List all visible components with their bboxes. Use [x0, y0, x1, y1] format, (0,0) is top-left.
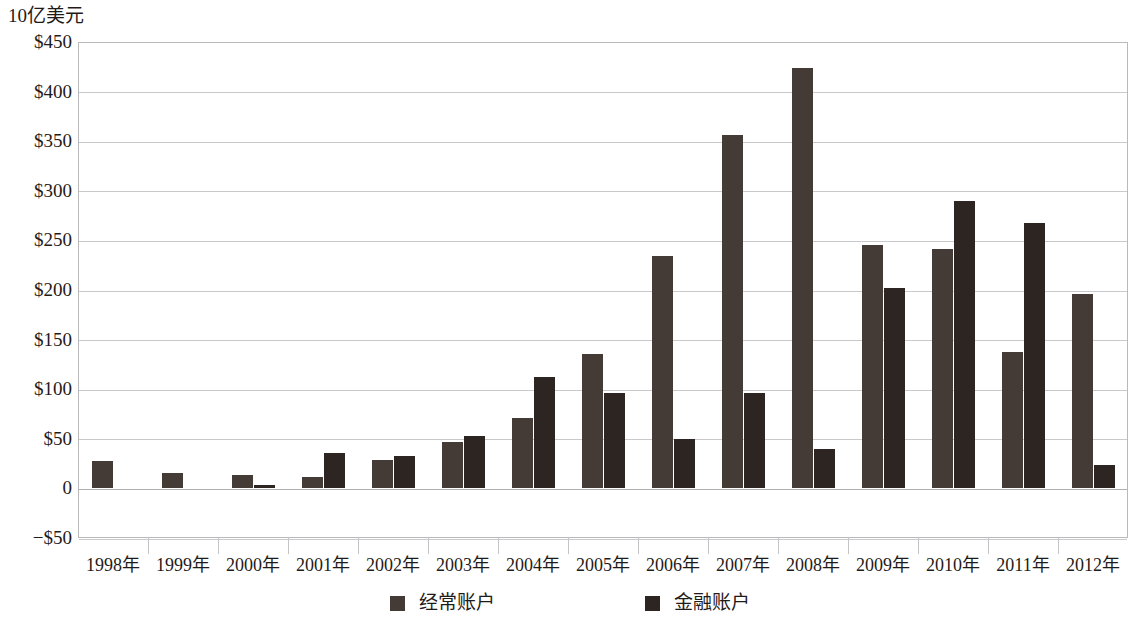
bar-financial — [464, 436, 485, 489]
y-axis-tick-label: $200 — [0, 280, 72, 299]
bar-group — [988, 42, 1058, 538]
bar-current — [442, 442, 463, 489]
bar-financial — [534, 377, 555, 488]
bars-layer — [78, 42, 1128, 538]
bar-current — [92, 461, 113, 489]
x-axis-tick-label: 1999年 — [148, 552, 218, 578]
y-axis-tick-label: −$50 — [0, 528, 72, 547]
bar-financial — [744, 393, 765, 488]
x-axis-tick-label: 2008年 — [778, 552, 848, 578]
bar-financial — [1024, 223, 1045, 489]
y-axis-tick-label: $100 — [0, 379, 72, 398]
bar-group — [848, 42, 918, 538]
bar-current — [652, 256, 673, 488]
bar-group — [778, 42, 848, 538]
x-axis-tick-labels: 1998年1999年2000年2001年2002年2003年2004年2005年… — [78, 552, 1128, 582]
legend-entry-2: 金融账户 — [645, 592, 750, 614]
bar-chart-figure: 10亿美元 $450$400$350$300$250$200$150$100$5… — [0, 0, 1140, 618]
bar-group — [148, 42, 218, 538]
bar-current — [512, 418, 533, 488]
bar-current — [302, 477, 323, 488]
bar-current — [862, 245, 883, 488]
bar-current — [932, 249, 953, 488]
y-axis-tick-label: 0 — [0, 478, 72, 497]
bar-financial — [674, 439, 695, 489]
x-axis-tick-label: 2010年 — [918, 552, 988, 578]
bar-financial — [954, 201, 975, 489]
x-axis-tick-label: 2002年 — [358, 552, 428, 578]
bar-current — [1002, 352, 1023, 489]
legend-entry-1: 经常账户 — [390, 592, 495, 614]
x-axis-tick-label: 2007年 — [708, 552, 778, 578]
bar-current — [162, 473, 183, 489]
x-axis-tick-label: 1998年 — [78, 552, 148, 578]
legend-swatch-icon — [645, 596, 660, 611]
x-axis-tick-label: 2000年 — [218, 552, 288, 578]
x-axis-tick-label: 2001年 — [288, 552, 358, 578]
y-axis-tick-label: $450 — [0, 32, 72, 51]
x-axis-tick-label: 2003年 — [428, 552, 498, 578]
y-axis-tick-label: $50 — [0, 429, 72, 448]
y-axis-tick-label: $400 — [0, 82, 72, 101]
y-axis-tick-label: $250 — [0, 230, 72, 249]
bar-financial — [254, 485, 275, 488]
y-axis-tick-label: $300 — [0, 181, 72, 200]
bar-current — [1072, 294, 1093, 488]
bar-current — [792, 68, 813, 489]
bar-financial — [604, 393, 625, 488]
bar-group — [568, 42, 638, 538]
chart-legend: 经常账户金融账户 — [0, 592, 1140, 614]
x-axis-tick-label: 2004年 — [498, 552, 568, 578]
legend-label: 金融账户 — [674, 592, 750, 614]
bar-group — [288, 42, 358, 538]
legend-label: 经常账户 — [419, 592, 495, 614]
bar-group — [1058, 42, 1128, 538]
x-axis-tick-label: 2005年 — [568, 552, 638, 578]
y-axis-unit-caption: 10亿美元 — [8, 4, 84, 28]
bar-current — [582, 354, 603, 488]
x-axis-tick-label: 2009年 — [848, 552, 918, 578]
bar-group — [428, 42, 498, 538]
bar-current — [372, 460, 393, 489]
bar-group — [638, 42, 708, 538]
x-axis-tick-label: 2006年 — [638, 552, 708, 578]
bar-group — [358, 42, 428, 538]
legend-swatch-icon — [390, 596, 405, 611]
x-axis-tick-label: 2011年 — [988, 552, 1058, 578]
x-axis-tick-label: 2012年 — [1058, 552, 1128, 578]
bar-current — [722, 135, 743, 488]
bar-financial — [1094, 465, 1115, 489]
bar-group — [218, 42, 288, 538]
bar-financial — [814, 449, 835, 489]
bar-financial — [884, 288, 905, 488]
bar-group — [498, 42, 568, 538]
y-axis-tick-label: $150 — [0, 330, 72, 349]
bar-current — [232, 475, 253, 489]
bar-financial — [394, 456, 415, 489]
bar-group — [78, 42, 148, 538]
bar-group — [918, 42, 988, 538]
y-axis-tick-label: $350 — [0, 131, 72, 150]
bar-group — [708, 42, 778, 538]
bar-financial — [324, 453, 345, 489]
